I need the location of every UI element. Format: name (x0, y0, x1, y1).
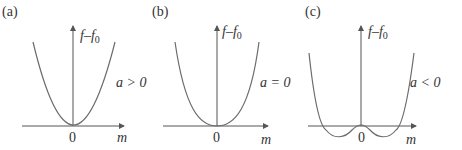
panel-c: (c) f–f0 0 m a < 0 (305, 4, 440, 147)
y-axis-label: f–f0 (222, 24, 242, 41)
panel-tag: (b) (152, 4, 169, 20)
x-axis-label: m (406, 132, 416, 147)
y-axis-label: f–f0 (368, 24, 388, 41)
panel-tag: (c) (305, 4, 321, 20)
free-energy-curve (33, 42, 115, 125)
landau-free-energy-figure: (a) f–f0 0 m a > 0 (b) f–f0 0 m a = 0 (c… (0, 0, 462, 150)
panel-b: (b) f–f0 0 m a = 0 (152, 4, 290, 147)
x-axis-label: m (117, 130, 127, 145)
x-axis-label: m (261, 132, 271, 147)
condition-label: a = 0 (260, 75, 290, 90)
condition-label: a < 0 (410, 75, 440, 90)
origin-label: 0 (213, 130, 220, 145)
panel-tag: (a) (2, 4, 18, 20)
panel-a: (a) f–f0 0 m a > 0 (2, 4, 146, 145)
condition-label: a > 0 (116, 75, 146, 90)
y-axis-label: f–f0 (80, 28, 100, 45)
origin-label: 0 (358, 130, 365, 145)
origin-label: 0 (69, 130, 76, 145)
